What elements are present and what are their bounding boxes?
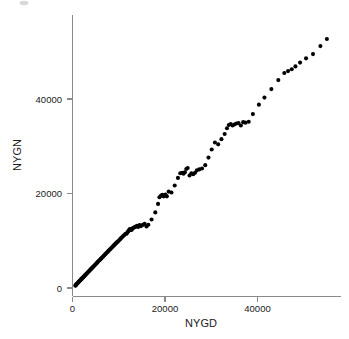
plot-canvas: 0 20000 40000 0 20000 40000 NYGD NYGN	[0, 0, 349, 339]
scatter-point	[173, 183, 177, 187]
scatter-point	[146, 223, 150, 227]
scatter-point	[311, 52, 315, 56]
y-axis-title: NYGN	[11, 139, 23, 171]
scatter-point	[156, 202, 160, 206]
scatter-point	[257, 103, 261, 107]
x-tick-label-40000: 40000	[244, 303, 270, 314]
y-axis-ticks	[67, 99, 73, 288]
scatter-point	[298, 61, 302, 65]
data-points-layer	[73, 37, 329, 288]
scatter-point	[282, 71, 286, 75]
scatter-point	[290, 67, 294, 71]
scatter-point	[251, 112, 255, 116]
scatter-point	[169, 191, 173, 195]
scatter-point	[276, 78, 280, 82]
scatter-point	[219, 137, 223, 141]
x-axis-ticks	[73, 297, 258, 303]
scatter-plot-figure: 0 20000 40000 0 20000 40000 NYGD NYGN	[0, 0, 349, 339]
scatter-point	[165, 194, 169, 198]
scatter-point	[262, 96, 266, 100]
scatter-point	[286, 69, 290, 73]
y-tick-label-40000: 40000	[36, 94, 62, 105]
scatter-point	[206, 156, 210, 160]
scatter-point	[293, 64, 297, 68]
scatter-point	[269, 87, 273, 91]
x-axis-title: NYGD	[185, 317, 217, 329]
scatter-point	[239, 123, 243, 127]
y-tick-label-20000: 20000	[36, 188, 62, 199]
x-tick-label-20000: 20000	[152, 303, 178, 314]
scatter-point	[247, 120, 251, 124]
scatter-point	[153, 210, 157, 214]
scatter-point	[210, 148, 214, 152]
scatter-point	[318, 44, 322, 48]
scatter-point	[304, 56, 308, 60]
scatter-point	[325, 37, 329, 41]
scatter-point	[216, 142, 220, 146]
scatter-point	[223, 132, 227, 136]
y-tick-label-0: 0	[57, 283, 62, 294]
scatter-point	[176, 176, 180, 180]
scatter-point	[203, 163, 207, 167]
x-tick-label-0: 0	[70, 303, 75, 314]
scan-artifact-smudge	[20, 1, 29, 5]
scatter-point	[150, 217, 154, 221]
scatter-point	[186, 166, 190, 170]
scatter-point	[200, 166, 204, 170]
